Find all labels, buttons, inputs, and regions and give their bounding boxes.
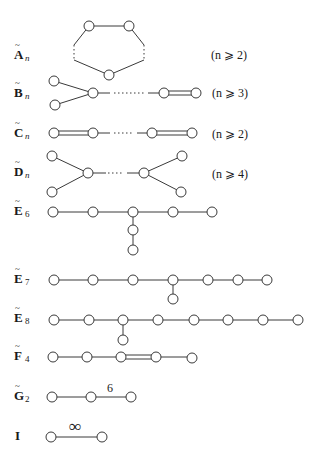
diagram-g-tilde-2: ~ G 2 6 <box>14 381 136 404</box>
diagram-label: A <box>14 47 24 62</box>
diagram-subscript: 8 <box>25 316 30 326</box>
diagram-a-tilde-n: ~ A n (n ⩾ 2) <box>14 21 247 80</box>
infinity-label: ∞ <box>69 417 81 436</box>
diagram-c-tilde-n: ~ C n (n ⩾ 2) <box>14 118 248 141</box>
diagram-d-tilde-n: ~ D n (n ⩾ 4) <box>14 151 248 197</box>
diagram-label: E <box>14 271 23 286</box>
diagram-b-tilde-n: ~ B n (n ⩾ 3) <box>14 76 248 110</box>
condition-text: (n ⩾ 2) <box>212 127 248 141</box>
diagram-subscript: 2 <box>25 394 30 404</box>
diagram-e-tilde-8: ~ E 8 <box>14 303 303 345</box>
condition-text: (n ⩾ 3) <box>212 86 248 100</box>
diagram-label: F <box>14 348 22 363</box>
diagram-subscript: n <box>25 91 30 101</box>
diagram-label: C <box>14 125 23 140</box>
diagram-f-tilde-4: ~ F 4 <box>14 341 197 364</box>
diagram-subscript: n <box>25 53 30 63</box>
diagram-subscript: 6 <box>25 209 30 219</box>
condition-text: (n ⩾ 4) <box>212 167 248 181</box>
diagram-subscript: 4 <box>25 354 30 364</box>
node <box>124 21 134 31</box>
node <box>84 21 94 31</box>
diagram-label: B <box>14 85 23 100</box>
condition-text: (n ⩾ 2) <box>211 48 247 62</box>
diagram-label: G <box>14 388 24 403</box>
diagram-subscript: n <box>25 170 30 180</box>
diagram-e-tilde-7: ~ E 7 <box>14 264 272 304</box>
diagram-label: E <box>14 203 23 218</box>
diagram-i-tilde: I ∞ <box>15 417 107 443</box>
diagram-label: E <box>14 310 23 325</box>
diagram-e-tilde-6: ~ E 6 <box>14 196 217 255</box>
diagram-label: I <box>15 428 20 443</box>
diagram-subscript: 7 <box>25 277 30 287</box>
edge-weight-label: 6 <box>107 381 113 395</box>
node <box>104 70 114 80</box>
diagram-subscript: n <box>25 131 30 141</box>
coxeter-diagrams-figure: ~ A n (n ⩾ 2) ~ B n (n ⩾ 3) ~ C <box>0 0 317 456</box>
diagram-label: D <box>14 164 23 179</box>
